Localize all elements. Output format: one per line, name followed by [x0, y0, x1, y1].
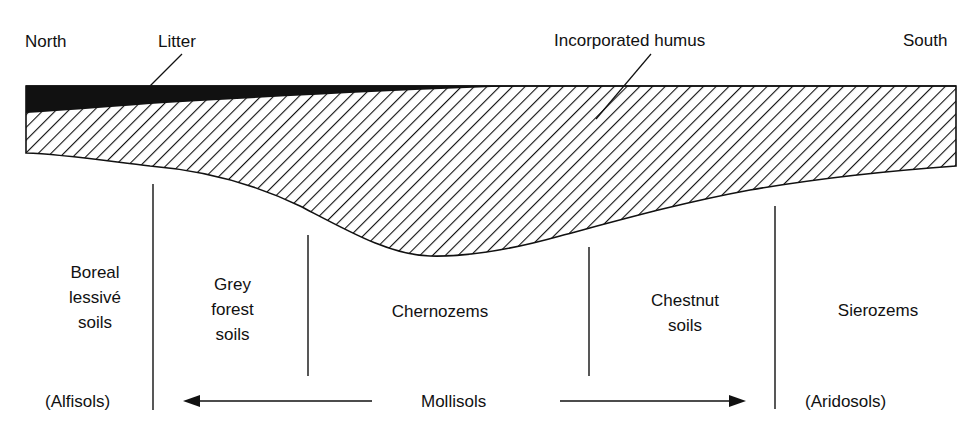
aridosols-label: (Aridosols) [805, 391, 886, 413]
zone-chernozems: Chernozems [370, 301, 510, 323]
alfisols-label: (Alfisols) [45, 391, 110, 413]
soil-profile-diagram [0, 0, 976, 434]
zone-chestnut: Chestnut soils [620, 288, 750, 338]
zone-sierozems: Sierozems [808, 300, 948, 322]
litter-label: Litter [158, 31, 196, 53]
south-label: South [903, 30, 947, 52]
litter-leader-line [150, 54, 182, 86]
zone-grey-forest: Grey forest soils [180, 272, 285, 347]
humus-label: Incorporated humus [554, 30, 705, 52]
humus-layer [26, 86, 956, 256]
mollisols-label: Mollisols [421, 391, 486, 413]
arrowhead-left-icon [183, 395, 200, 407]
north-label: North [25, 31, 67, 53]
zone-boreal-lessive: Boreal lessivé soils [40, 260, 150, 335]
arrowhead-right-icon [729, 395, 746, 407]
